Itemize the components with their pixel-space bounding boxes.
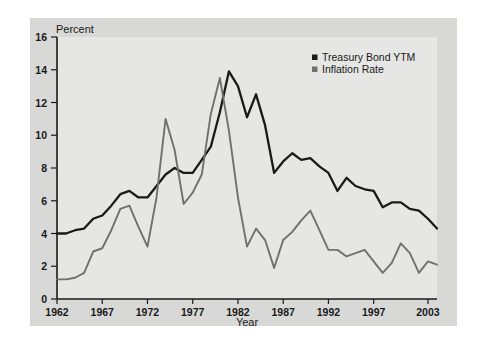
chart-panel: Percent 0 2 4 6 8 10	[30, 18, 457, 326]
x-tick-label: 2003	[416, 306, 440, 318]
y-tick-label: 6	[41, 195, 47, 207]
chart-legend: Treasury Bond YTM Inflation Rate	[312, 51, 415, 75]
y-tick-label: 2	[41, 260, 47, 272]
y-tick-label: 0	[41, 293, 47, 305]
x-tick-label: 1992	[317, 306, 341, 318]
x-tick-label: 1972	[136, 306, 160, 318]
legend-marker-inflation	[312, 67, 318, 73]
y-axis-title: Percent	[56, 23, 94, 35]
y-axis-ticks	[51, 37, 57, 299]
x-axis-title: Year	[236, 316, 259, 326]
y-tick-label: 14	[35, 64, 47, 76]
x-tick-label: 1962	[45, 306, 69, 318]
series-line-treasury-bond-ytm	[57, 71, 437, 233]
y-tick-label: 4	[41, 228, 47, 240]
y-tick-label: 10	[35, 129, 47, 141]
y-tick-label: 16	[35, 31, 47, 43]
y-tick-label: 12	[35, 97, 47, 109]
y-axis-tick-labels: 0 2 4 6 8 10 12 14 16	[35, 31, 47, 305]
x-tick-label: 1997	[362, 306, 386, 318]
series-line-inflation-rate	[57, 78, 437, 279]
series-group	[57, 71, 437, 279]
line-chart: Percent 0 2 4 6 8 10	[30, 18, 457, 326]
legend-marker-treasury	[312, 55, 318, 61]
x-tick-label: 1987	[272, 306, 296, 318]
figure-root: Percent 0 2 4 6 8 10	[0, 0, 488, 349]
x-tick-label: 1977	[181, 306, 205, 318]
y-tick-label: 8	[41, 162, 47, 174]
x-tick-label: 1967	[91, 306, 115, 318]
legend-label-inflation: Inflation Rate	[322, 63, 384, 75]
legend-label-treasury: Treasury Bond YTM	[322, 51, 415, 63]
